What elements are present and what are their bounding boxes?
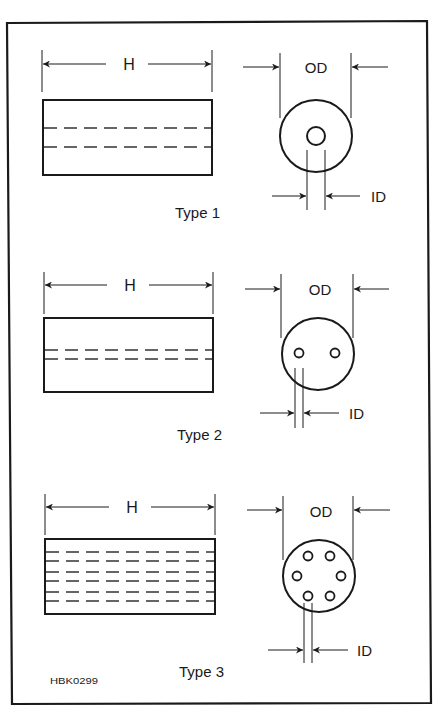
hole [307, 127, 325, 145]
type-1-label: Type 1 [175, 204, 220, 221]
od-label: OD [309, 281, 332, 298]
side-body [45, 539, 215, 614]
ferrite-bead-types-diagram: H Type 1 OD ID H [0, 0, 444, 720]
id-label: ID [371, 188, 386, 205]
outer-circle [282, 318, 354, 390]
od-label: OD [310, 503, 333, 520]
type-3-label: Type 3 [179, 663, 224, 680]
hole [337, 572, 346, 581]
type-3-end-view: OD ID [247, 496, 390, 663]
h-label: H [123, 56, 135, 73]
figure-code: HBK0299 [50, 675, 98, 686]
side-body [44, 318, 213, 392]
type-1-group: H Type 1 OD ID [42, 50, 388, 221]
hole [331, 349, 340, 358]
od-label: OD [305, 59, 328, 76]
id-label: ID [349, 405, 364, 422]
hole [326, 592, 335, 601]
outer-circle [280, 100, 352, 172]
type-2-side-view: H [44, 272, 213, 392]
type-2-end-view: OD ID [245, 274, 389, 428]
side-body [43, 100, 212, 175]
type-2-label: Type 2 [177, 426, 222, 443]
id-label: ID [357, 642, 372, 659]
type-2-group: H Type 2 OD ID [44, 272, 389, 443]
h-label: H [126, 499, 138, 516]
hole [326, 552, 335, 561]
type-3-side-view: H [45, 494, 215, 614]
h-label: H [124, 277, 136, 294]
hole [295, 349, 304, 358]
hole [304, 552, 313, 561]
type-1-side-view: H [42, 50, 212, 175]
type-3-group: H Type 3 HBK0299 OD [45, 494, 390, 686]
hole [293, 572, 302, 581]
outer-circle [283, 540, 355, 612]
type-1-end-view: OD ID [243, 53, 388, 210]
hole [304, 592, 313, 601]
